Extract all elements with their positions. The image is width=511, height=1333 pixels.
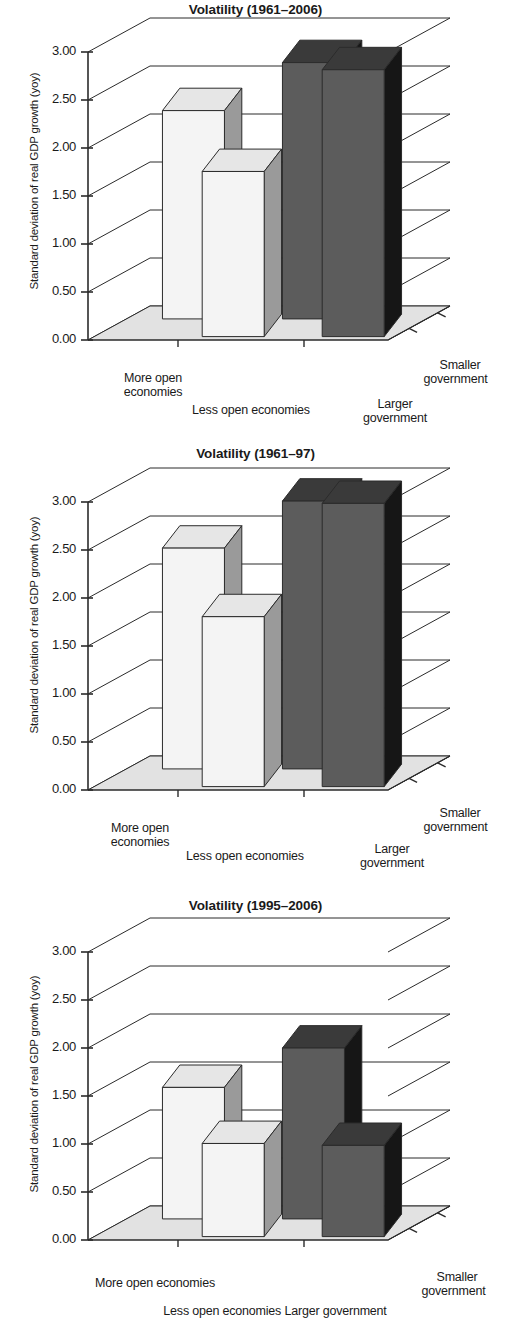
- y-tick-label: 0.50: [26, 1183, 76, 1198]
- x-label-more-open-2: economies: [98, 385, 208, 399]
- y-tick-label: 3.00: [26, 43, 76, 58]
- y-tick-label: 0.50: [26, 283, 76, 298]
- z-label-smaller-gov-2: government: [400, 372, 511, 386]
- plot-area: [0, 888, 511, 1332]
- y-tick-label: 2.50: [26, 541, 76, 556]
- y-tick-label: 2.00: [26, 139, 76, 154]
- y-tick-label: 1.00: [26, 1135, 76, 1150]
- y-tick-label: 2.50: [26, 91, 76, 106]
- z-label-smaller-gov: Smaller: [415, 806, 505, 820]
- x-label-less-open: Less open economies: [160, 849, 330, 863]
- y-tick-label: 3.00: [26, 943, 76, 958]
- x-label-more-open: More open: [98, 371, 208, 385]
- y-tick-label: 3.00: [26, 493, 76, 508]
- y-tick-label: 0.00: [26, 1231, 76, 1246]
- y-tick-label: 2.50: [26, 991, 76, 1006]
- y-tick-label: 0.00: [26, 781, 76, 796]
- z-label-larger-gov-2: government: [340, 411, 450, 425]
- z-label-larger-gov: Larger: [355, 397, 435, 411]
- bar-front-right: [322, 481, 401, 787]
- bar-front-left: [202, 594, 281, 786]
- y-tick-label: 0.50: [26, 733, 76, 748]
- z-label-smaller-gov: Smaller: [415, 358, 505, 372]
- y-tick-label: 1.50: [26, 187, 76, 202]
- chart-panel-1961-97: Volatility (1961–97) Standard deviation …: [0, 444, 511, 888]
- y-tick-label: 0.00: [26, 331, 76, 346]
- y-tick-label: 1.00: [26, 235, 76, 250]
- x-label-more-open: More open: [85, 821, 195, 835]
- z-label-smaller-gov: Smaller: [412, 1270, 502, 1284]
- y-tick-label: 2.00: [26, 1039, 76, 1054]
- x-label-less-open: Less open economies: [166, 403, 336, 417]
- bar-front-right: [322, 1123, 401, 1237]
- bar-front-left: [202, 1121, 281, 1237]
- bar-front-right: [322, 47, 401, 336]
- z-label-smaller-gov-2: government: [398, 1284, 509, 1298]
- y-tick-label: 1.50: [26, 1087, 76, 1102]
- x-label-more-open: More open economies: [55, 1276, 255, 1290]
- y-tick-label: 1.00: [26, 685, 76, 700]
- bar-front-left: [202, 149, 281, 337]
- y-tick-label: 2.00: [26, 589, 76, 604]
- chart-panel-1961-2006: Volatility (1961–2006) Standard deviatio…: [0, 0, 511, 444]
- z-label-larger-gov-2: government: [337, 856, 447, 870]
- x-label-more-open-2: economies: [85, 835, 195, 849]
- y-tick-label: 1.50: [26, 637, 76, 652]
- chart-panel-1995-2006: Volatility (1995–2006) Standard deviatio…: [0, 888, 511, 1333]
- z-label-larger-gov: Larger: [352, 842, 432, 856]
- x-label-less-open: Less open economies Larger government: [140, 1304, 410, 1318]
- z-label-smaller-gov-2: government: [400, 820, 511, 834]
